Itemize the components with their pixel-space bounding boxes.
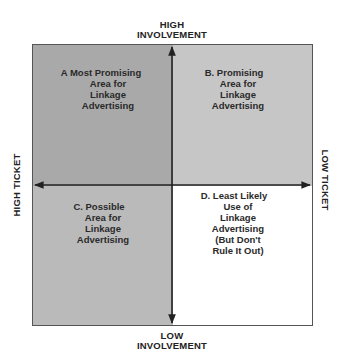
quadrant-a-line: A Most Promising xyxy=(39,67,163,78)
bottom-axis-label-line2: INVOLVEMENT xyxy=(120,341,224,351)
quadrant-b: B. Promising Area for Linkage Advertisin… xyxy=(173,45,312,186)
quadrant-c-line: Linkage xyxy=(53,223,153,234)
quadrant-c-text: C. Possible Area for Linkage Advertising xyxy=(53,201,153,245)
quadrant-c-line: Advertising xyxy=(53,234,153,245)
quadrant-b-line: Area for xyxy=(183,78,293,89)
quadrant-d-line: Rule It Out) xyxy=(183,245,293,256)
quadrant-d: D. Least Likely Use of Linkage Advertisi… xyxy=(173,186,312,325)
quadrant-d-line: (But Don't xyxy=(183,234,293,245)
left-axis-label: HIGH TICKET xyxy=(12,154,22,217)
quadrant-b-line: Linkage xyxy=(183,89,293,100)
top-axis-label: HIGH INVOLVEMENT xyxy=(120,20,224,40)
quadrant-b-line: Advertising xyxy=(183,100,293,111)
quadrant-matrix: A Most Promising Area for Linkage Advert… xyxy=(32,44,313,326)
bottom-axis-label: LOW INVOLVEMENT xyxy=(120,331,224,351)
quadrant-d-text: D. Least Likely Use of Linkage Advertisi… xyxy=(183,190,293,256)
quadrant-a-line: Area for xyxy=(53,78,163,89)
quadrant-a: A Most Promising Area for Linkage Advert… xyxy=(33,45,173,186)
quadrant-b-text: B. Promising Area for Linkage Advertisin… xyxy=(183,67,293,111)
quadrant-b-line: B. Promising xyxy=(175,67,293,78)
quadrant-a-text: A Most Promising Area for Linkage Advert… xyxy=(53,67,163,111)
top-axis-label-line2: INVOLVEMENT xyxy=(120,30,224,40)
quadrant-d-line: Advertising xyxy=(183,223,293,234)
quadrant-a-line: Linkage xyxy=(53,89,163,100)
right-axis-label: LOW TICKET xyxy=(320,149,330,210)
quadrant-d-line: D. Least Likely xyxy=(175,190,293,201)
quadrant-d-line: Use of xyxy=(183,201,293,212)
quadrant-c: C. Possible Area for Linkage Advertising xyxy=(33,186,173,325)
quadrant-c-line: C. Possible xyxy=(45,201,153,212)
quadrant-c-line: Area for xyxy=(53,212,153,223)
quadrant-d-line: Linkage xyxy=(183,212,293,223)
quadrant-a-line: Advertising xyxy=(53,100,163,111)
